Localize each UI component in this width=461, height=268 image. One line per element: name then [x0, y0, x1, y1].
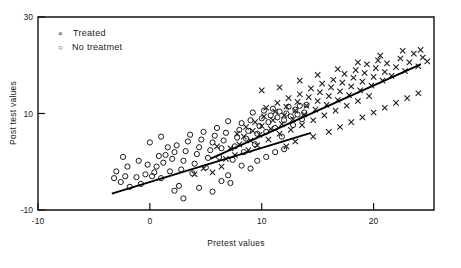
x-tick-label-3: 20: [369, 216, 379, 226]
figure-background: [0, 0, 461, 268]
x-tick-label-1: 0: [147, 216, 152, 226]
legend-marker-treated: ×: [58, 29, 63, 38]
y-axis-title: Post test values: [8, 81, 18, 145]
legend-label-no-treatment: No treatmet: [72, 42, 123, 52]
x-tick-label-2: 10: [257, 216, 267, 226]
x-tick-label-0: -10: [32, 216, 45, 226]
legend-label-treated: Treated: [73, 28, 106, 38]
y-tick-label-1: 10: [24, 109, 34, 119]
x-axis-title: Pretest values: [207, 238, 264, 248]
y-tick-label-2: 30: [24, 12, 34, 22]
scatter-plot-figure: -101030 -1001020 × Treated ○ No treatmet…: [0, 0, 461, 268]
y-tick-label-0: -10: [21, 205, 34, 215]
legend-marker-no-treatment: ○: [58, 43, 63, 52]
